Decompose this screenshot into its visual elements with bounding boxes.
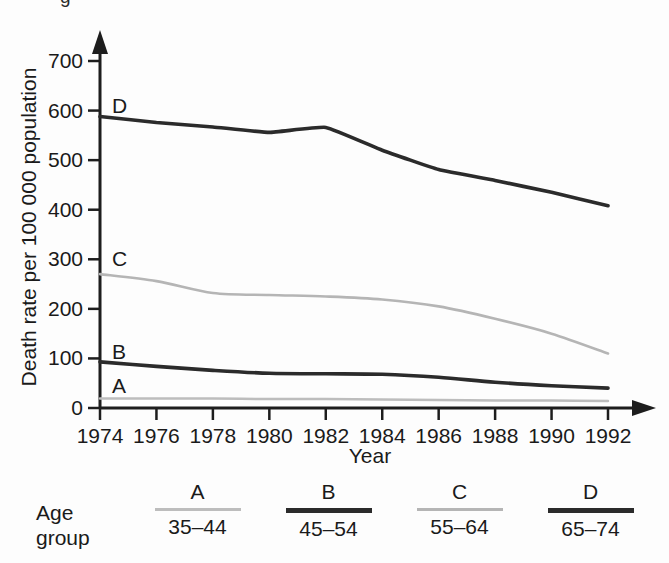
y-tick-label: 100 bbox=[48, 346, 83, 369]
series-line-c bbox=[100, 274, 608, 353]
y-tick-label: 400 bbox=[48, 198, 83, 221]
legend-entry-range: 55–64 bbox=[394, 514, 525, 540]
y-tick-label: 500 bbox=[48, 148, 83, 171]
x-tick-label: 1976 bbox=[133, 424, 180, 447]
legend-entry-letter: D bbox=[525, 480, 656, 504]
x-tick-label: 1980 bbox=[246, 424, 293, 447]
x-axis-ticks: 1974197619781980198219841986198819901992 bbox=[77, 408, 632, 447]
x-tick-label: 1982 bbox=[302, 424, 349, 447]
legend-entry-swatch bbox=[286, 508, 372, 513]
plot-area: 0100200300400500600700 19741976197819801… bbox=[0, 0, 669, 470]
series-paths-group bbox=[100, 117, 608, 402]
legend-entry-letter: B bbox=[263, 480, 394, 504]
legend-entries: A35–44B45–54C55–64D65–74 bbox=[132, 480, 656, 542]
legend-entry-swatch bbox=[548, 508, 634, 513]
legend-entry-d: D65–74 bbox=[525, 480, 656, 542]
legend-title-line2: group bbox=[36, 525, 132, 550]
death-rate-line-chart-figure: g 0100200300400500600700 197419761978198… bbox=[0, 0, 669, 563]
legend-entry-b: B45–54 bbox=[263, 480, 394, 542]
legend-entry-swatch bbox=[417, 508, 503, 511]
y-tick-label: 0 bbox=[71, 396, 83, 419]
x-tick-label: 1974 bbox=[77, 424, 124, 447]
legend-entry-letter: C bbox=[394, 480, 525, 504]
series-inline-label-c: C bbox=[112, 247, 127, 270]
series-line-d bbox=[100, 117, 608, 206]
x-tick-label: 1992 bbox=[585, 424, 632, 447]
series-line-a bbox=[100, 399, 608, 402]
legend-entry-range: 65–74 bbox=[525, 516, 656, 542]
legend-title: Age group bbox=[36, 480, 132, 550]
legend-entry-range: 45–54 bbox=[263, 516, 394, 542]
legend-entry-letter: A bbox=[132, 480, 263, 504]
chart-svg: 0100200300400500600700 19741976197819801… bbox=[0, 0, 669, 470]
series-inline-labels: DCBA bbox=[112, 94, 127, 397]
legend-title-line1: Age bbox=[36, 500, 132, 525]
x-tick-label: 1986 bbox=[415, 424, 462, 447]
series-inline-label-d: D bbox=[112, 94, 127, 117]
series-line-b bbox=[100, 362, 608, 388]
y-tick-label: 700 bbox=[48, 49, 83, 72]
legend-entry-c: C55–64 bbox=[394, 480, 525, 540]
y-tick-label: 200 bbox=[48, 297, 83, 320]
x-axis-title: Year bbox=[349, 444, 391, 467]
x-tick-label: 1990 bbox=[528, 424, 575, 447]
legend-entry-range: 35–44 bbox=[132, 514, 263, 540]
legend-entry-a: A35–44 bbox=[132, 480, 263, 540]
y-tick-label: 600 bbox=[48, 99, 83, 122]
x-axis-arrowhead bbox=[632, 400, 656, 416]
legend: Age group A35–44B45–54C55–64D65–74 bbox=[0, 470, 669, 563]
y-tick-label: 300 bbox=[48, 247, 83, 270]
series-inline-label-b: B bbox=[112, 340, 126, 363]
y-axis-ticks: 0100200300400500600700 bbox=[48, 49, 100, 419]
x-tick-label: 1978 bbox=[190, 424, 237, 447]
x-tick-label: 1988 bbox=[472, 424, 519, 447]
y-axis-arrowhead bbox=[92, 30, 108, 54]
legend-entry-swatch bbox=[155, 508, 241, 511]
series-inline-label-a: A bbox=[112, 374, 126, 397]
